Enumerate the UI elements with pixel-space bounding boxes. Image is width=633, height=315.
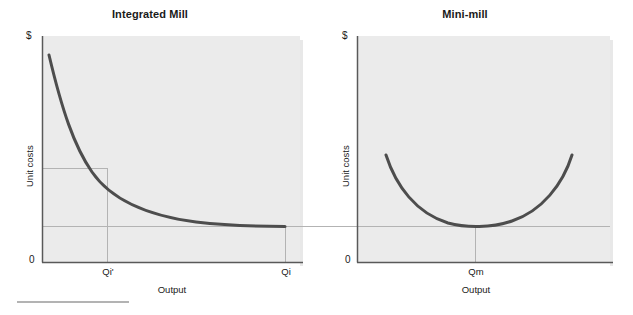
y-axis-zero-label-minimill: 0 (345, 254, 351, 265)
plot-area-background-minimill (357, 36, 610, 262)
plot-area-shadow-right-integrated (300, 40, 303, 266)
y-axis-zero-label-integrated: 0 (29, 254, 35, 265)
y-axis-top-label-minimill: $ (342, 30, 348, 41)
panel-title-mini-mill: Mini-mill (320, 8, 610, 20)
y-axis-top-label-integrated: $ (26, 30, 32, 41)
plot-area-shadow-right-minimill (610, 40, 613, 266)
y-axis-title-integrated: Unit costs (24, 145, 35, 187)
panel-integrated-mill: Integrated Mill $ 0 Unit costs Qi' Qi (0, 0, 320, 315)
panel-mini-mill: Mini-mill $ 0 Unit costs Qm Output (320, 0, 633, 315)
x-axis-title-minimill: Output (436, 284, 516, 295)
x-tick-label-qi-prime: Qi' (90, 266, 126, 277)
figure-root: Integrated Mill $ 0 Unit costs Qi' Qi (0, 0, 633, 315)
x-axis-title-integrated: Output (132, 284, 212, 295)
x-tick-label-qi: Qi (268, 266, 304, 277)
y-axis-title-minimill: Unit costs (340, 145, 351, 187)
x-tick-label-qm: Qm (458, 266, 494, 277)
panel-title-integrated-mill: Integrated Mill (0, 8, 300, 20)
plot-area-background-integrated (42, 36, 300, 262)
footer-divider-rule (17, 301, 129, 303)
